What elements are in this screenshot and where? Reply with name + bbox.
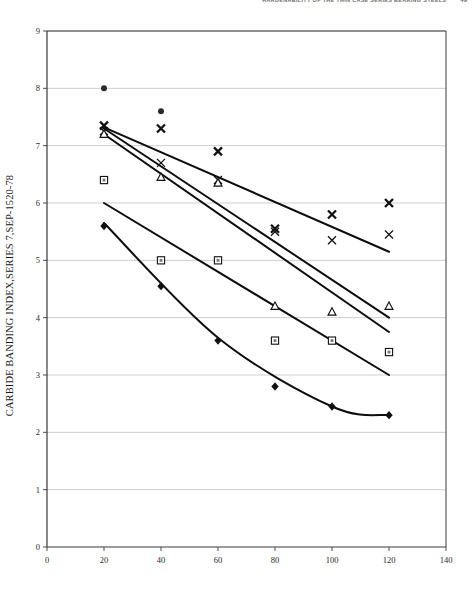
chart-svg: 0123456789020406080100120140 bbox=[0, 0, 473, 591]
chart-plot-area: 0123456789020406080100120140 bbox=[0, 0, 473, 591]
y-tick-label-5: 5 bbox=[36, 255, 40, 265]
marker-open-square-inner bbox=[217, 259, 220, 262]
y-tick-label-4: 4 bbox=[36, 313, 41, 323]
marker-open-square-inner bbox=[331, 339, 334, 342]
x-tick-label-140: 140 bbox=[440, 555, 453, 565]
y-tick-label-6: 6 bbox=[36, 198, 40, 208]
y-tick-label-1: 1 bbox=[36, 485, 40, 495]
marker-filled-diamond bbox=[100, 222, 107, 230]
marker-open-square-inner bbox=[160, 259, 163, 262]
y-tick-label-7: 7 bbox=[36, 141, 40, 151]
datapoint-series-1-20 bbox=[101, 85, 107, 91]
marker-open-square-inner bbox=[103, 179, 106, 182]
datapoint-series-4-80 bbox=[271, 302, 279, 309]
datapoint-series-5-20 bbox=[100, 176, 107, 183]
y-tick-label-3: 3 bbox=[36, 370, 40, 380]
datapoint-series-5-40 bbox=[157, 257, 164, 264]
marker-open-square-inner bbox=[274, 339, 277, 342]
marker-filled-circle bbox=[101, 85, 107, 91]
datapoint-series-6-40 bbox=[157, 282, 164, 290]
x-tick-label-100: 100 bbox=[326, 555, 339, 565]
y-tick-label-8: 8 bbox=[36, 83, 40, 93]
marker-open-triangle bbox=[328, 308, 336, 315]
marker-filled-circle bbox=[158, 108, 164, 114]
x-tick-label-0: 0 bbox=[45, 555, 49, 565]
datapoint-series-3-120 bbox=[385, 231, 393, 239]
datapoint-series-6-20 bbox=[100, 222, 107, 230]
marker-x-bold bbox=[328, 210, 336, 218]
datapoint-series-5-80 bbox=[271, 337, 278, 344]
marker-x-bold bbox=[157, 124, 165, 132]
datapoint-series-2-100 bbox=[328, 210, 336, 218]
marker-open-triangle bbox=[271, 302, 279, 309]
datapoint-series-5-60 bbox=[214, 257, 221, 264]
marker-filled-diamond bbox=[271, 382, 278, 390]
page-root: HARDENABILITY OF THE THIN CASE SERIES BE… bbox=[0, 0, 473, 591]
marker-open-triangle bbox=[385, 302, 393, 309]
trendline-series-6 bbox=[104, 223, 389, 415]
datapoint-series-3-100 bbox=[328, 236, 336, 244]
datapoint-series-4-120 bbox=[385, 302, 393, 309]
marker-x-thin bbox=[385, 231, 393, 239]
x-tick-label-80: 80 bbox=[271, 555, 280, 565]
datapoint-series-6-120 bbox=[385, 411, 392, 419]
datapoint-series-6-80 bbox=[271, 382, 278, 390]
x-tick-label-60: 60 bbox=[214, 555, 223, 565]
marker-filled-diamond bbox=[328, 402, 335, 410]
datapoint-series-4-100 bbox=[328, 308, 336, 315]
marker-filled-diamond bbox=[214, 336, 221, 344]
y-tick-label-0: 0 bbox=[36, 542, 40, 552]
y-tick-label-2: 2 bbox=[36, 427, 40, 437]
marker-filled-diamond bbox=[385, 411, 392, 419]
datapoint-series-6-100 bbox=[328, 402, 335, 410]
series-group-series-2 bbox=[100, 122, 393, 233]
marker-open-square-inner bbox=[388, 351, 391, 354]
datapoint-series-5-100 bbox=[328, 337, 335, 344]
series-group-series-1 bbox=[101, 85, 164, 114]
datapoint-series-2-40 bbox=[157, 124, 165, 132]
x-tick-label-20: 20 bbox=[100, 555, 109, 565]
datapoint-series-5-120 bbox=[385, 348, 392, 355]
datapoint-series-2-60 bbox=[214, 147, 222, 155]
marker-x-bold bbox=[214, 147, 222, 155]
marker-x-thin bbox=[328, 236, 336, 244]
x-tick-label-40: 40 bbox=[157, 555, 166, 565]
y-tick-label-9: 9 bbox=[36, 26, 40, 36]
datapoint-series-6-60 bbox=[214, 336, 221, 344]
x-tick-label-120: 120 bbox=[383, 555, 396, 565]
series-group-series-6 bbox=[100, 222, 392, 420]
datapoint-series-1-40 bbox=[158, 108, 164, 114]
marker-filled-diamond bbox=[157, 282, 164, 290]
